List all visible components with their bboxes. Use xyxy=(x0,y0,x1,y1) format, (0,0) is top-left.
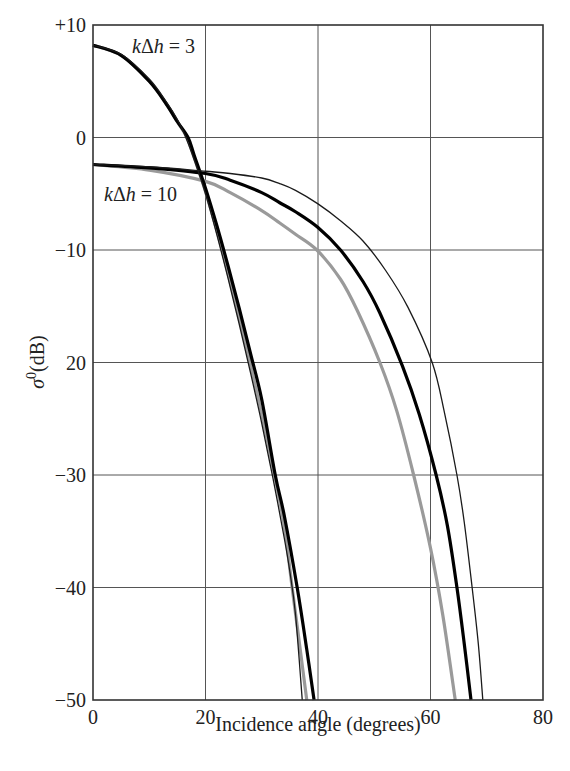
y-tick-label: 20 xyxy=(66,352,86,374)
series-line-k-h-3-thick-black xyxy=(93,45,314,700)
y-tick-label: −30 xyxy=(55,464,86,486)
y-tick-label: −50 xyxy=(55,689,86,711)
series-line-k-h-3-thin-black xyxy=(93,45,302,700)
curve-annotation: kΔh = 3 xyxy=(132,35,195,57)
series-line-k-h-3-grey xyxy=(93,45,307,700)
y-tick-label: −10 xyxy=(55,239,86,261)
x-tick-label: 20 xyxy=(196,706,216,728)
gridlines xyxy=(93,25,543,700)
curve-annotation: kΔh = 10 xyxy=(104,183,177,205)
y-axis-title: σ0(dB) xyxy=(24,335,49,389)
x-tick-label: 0 xyxy=(88,706,98,728)
y-tick-label: −40 xyxy=(55,577,86,599)
y-tick-label: 0 xyxy=(76,127,86,149)
annotations: kΔh = 3kΔh = 10 xyxy=(104,35,195,205)
x-tick-label: 60 xyxy=(421,706,441,728)
x-axis-title: Incidence angle (degrees) xyxy=(215,713,420,736)
y-tick-label: +10 xyxy=(55,14,86,36)
data-series xyxy=(93,45,483,700)
chart-canvas: 020406080 +100−1020−30−40−50 Incidence a… xyxy=(0,0,570,771)
y-axis-unit: (dB) xyxy=(26,335,49,372)
series-line-k-h-10-thick-black xyxy=(93,165,471,701)
x-tick-label: 80 xyxy=(533,706,553,728)
y-axis-superscript: 0 xyxy=(24,372,39,379)
series-line-k-h-10-grey xyxy=(93,165,455,701)
chart: 020406080 +100−1020−30−40−50 Incidence a… xyxy=(0,0,570,771)
y-axis-ticks: +100−1020−30−40−50 xyxy=(55,14,86,711)
svg-text:σ0(dB): σ0(dB) xyxy=(24,335,49,389)
